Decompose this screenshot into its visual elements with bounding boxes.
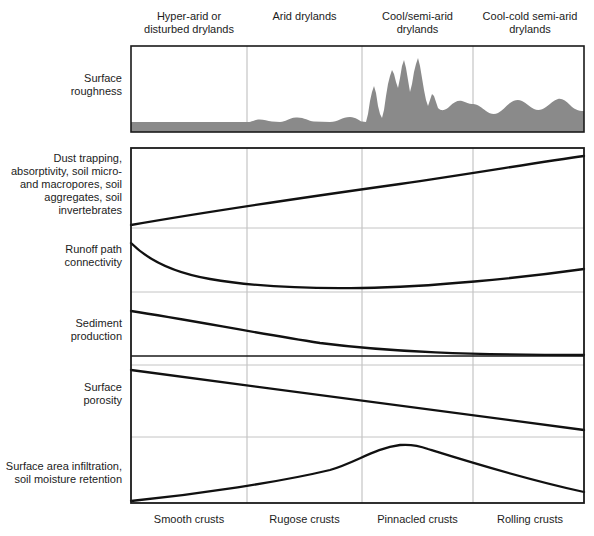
- figure-graphics: [0, 0, 594, 536]
- surface-roughness-panel: [131, 46, 584, 132]
- process-curves-panel: [131, 148, 584, 503]
- soil-crust-figure: Hyper-arid or disturbed drylands Arid dr…: [0, 0, 594, 536]
- main-panel-background: [131, 148, 584, 503]
